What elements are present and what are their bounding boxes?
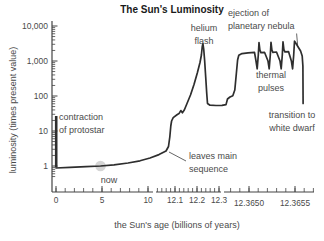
x-tick-label: 12.1: [167, 195, 184, 205]
annotation-line: ejection of: [228, 8, 269, 18]
x-tick-label: 12.3: [211, 195, 228, 205]
annotation-line: now: [101, 175, 118, 185]
annotation-contraction-of-protostar: contraction of protostar: [59, 111, 105, 136]
y-tick-label: 100: [34, 91, 48, 101]
luminosity-curve: [56, 41, 303, 168]
annotation-line: planetary nebula: [228, 21, 295, 31]
annotation-transition-to-white-dwarf: transition to white dwarf: [259, 109, 324, 134]
x-tick-label: 12.2: [189, 195, 206, 205]
y-tick-label: 10,000: [22, 21, 48, 31]
annotation-now: now: [96, 174, 122, 187]
annotation-thermal-pulses: thermal pulses: [245, 69, 297, 94]
annotation-line: leaves main: [189, 151, 237, 161]
x-tick-label: 5: [100, 195, 105, 205]
x-axis-label: the Sun's age (billions of years): [40, 220, 314, 230]
annotation-ejection-of-planetary-nebula: ejection of planetary nebula: [228, 7, 295, 32]
annotation-helium-flash: helium flash: [178, 22, 230, 47]
annotation-line: pulses: [258, 83, 284, 93]
annotation-leaves-main-sequence: leaves main sequence: [189, 150, 237, 175]
x-tick-label: 0: [54, 195, 59, 205]
annotation-line: sequence: [189, 164, 228, 174]
leaves-main-sequence-pointer: [169, 152, 186, 161]
annotation-line: transition to: [269, 110, 316, 120]
annotation-line: of protostar: [59, 125, 105, 135]
annotation-line: helium: [191, 23, 218, 33]
annotation-line: flash: [194, 36, 213, 46]
annotation-line: contraction: [59, 112, 103, 122]
x-tick-label: 12.3650: [234, 198, 264, 208]
chart-figure: 1101001,00010,000051012.112.212.312.3650…: [0, 0, 324, 241]
x-tick-label: 12.3655: [280, 198, 310, 208]
y-tick-label: 1: [43, 161, 48, 171]
y-tick-label: 10: [39, 126, 49, 136]
y-tick-label: 1,000: [27, 56, 49, 66]
annotation-line: thermal: [256, 70, 286, 80]
y-axis-label: luminosity (times present value): [8, 47, 18, 174]
annotation-line: white dwarf: [269, 123, 315, 133]
x-tick-label: 10: [143, 195, 153, 205]
